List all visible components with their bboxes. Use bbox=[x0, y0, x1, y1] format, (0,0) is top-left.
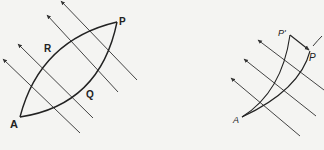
displacement-arrow-P-prime-to-P bbox=[290, 35, 309, 50]
field-arrow bbox=[258, 40, 324, 90]
label-P-prime: P' bbox=[278, 28, 286, 38]
label-A-left: A bbox=[10, 118, 18, 130]
label-A-right: A bbox=[232, 115, 239, 125]
label-P-left: P bbox=[119, 16, 126, 27]
left-lens-figure: A R P Q bbox=[2, 1, 137, 138]
lens-upper-arc-ARP bbox=[20, 22, 117, 117]
right-curved-figure: A P' P bbox=[231, 28, 324, 136]
label-R: R bbox=[44, 43, 52, 54]
field-arrow bbox=[231, 78, 300, 136]
label-P-right: P bbox=[309, 52, 316, 63]
label-Q: Q bbox=[86, 89, 94, 100]
leader-line bbox=[313, 36, 322, 46]
lens-lower-arc-AQP bbox=[20, 22, 117, 117]
diagram-canvas: A R P Q A P' P bbox=[0, 0, 324, 150]
